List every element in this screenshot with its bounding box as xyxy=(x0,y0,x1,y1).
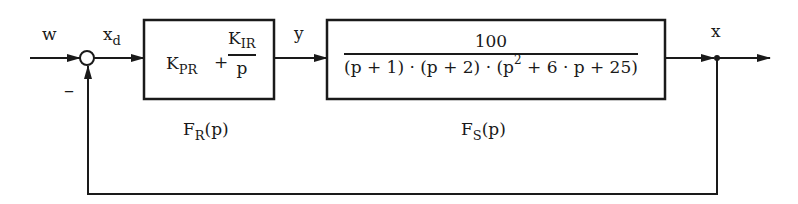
integral-denominator: p xyxy=(236,60,247,77)
feedback-sign: – xyxy=(64,80,74,100)
controller-name: FR(p) xyxy=(183,121,229,138)
error-subscript: d xyxy=(113,33,121,48)
error-symbol: x xyxy=(103,24,113,44)
proportional-gain: KPR xyxy=(166,55,197,72)
summing-junction xyxy=(80,51,94,65)
ki-subscript: IR xyxy=(241,36,256,51)
den-superscript: 2 xyxy=(514,53,522,67)
control-signal-symbol: y xyxy=(294,23,304,43)
controller-transfer-function: KPR + KIR p xyxy=(160,28,270,92)
reference-label: w xyxy=(42,26,57,43)
den-part2: + 6 · p + 25) xyxy=(522,57,638,77)
den-part1: (p + 1) · (p + 2) · (p xyxy=(344,57,514,77)
reference-symbol: w xyxy=(42,24,57,44)
ki-symbol: K xyxy=(228,28,241,48)
plant-name-symbol: F xyxy=(461,119,473,139)
plant-transfer-function: 100 (p + 1) · (p + 2) · (p2 + 6 · p + 25… xyxy=(344,33,638,76)
fraction-bar xyxy=(344,53,638,55)
controller-name-arg: (p) xyxy=(205,119,229,139)
control-signal-label: y xyxy=(294,25,304,42)
error-label: xd xyxy=(103,26,121,43)
plant-name-arg: (p) xyxy=(482,119,506,139)
integral-numerator: KIR xyxy=(228,30,256,47)
kp-symbol: K xyxy=(166,53,179,73)
integral-term: KIR p xyxy=(228,30,256,77)
plant-name-subscript: S xyxy=(473,128,482,143)
controller-name-subscript: R xyxy=(195,128,205,143)
plant-name: FS(p) xyxy=(461,121,506,138)
controller-name-symbol: F xyxy=(183,119,195,139)
output-label: x xyxy=(711,23,721,40)
plus-sign: + xyxy=(214,54,228,71)
minus-sign: – xyxy=(64,78,74,102)
plus-symbol: + xyxy=(214,52,228,72)
fraction-bar xyxy=(228,54,256,56)
plant-numerator: 100 xyxy=(475,33,507,50)
plant-denominator: (p + 1) · (p + 2) · (p2 + 6 · p + 25) xyxy=(344,59,638,76)
kp-subscript: PR xyxy=(179,62,198,77)
output-symbol: x xyxy=(711,21,721,41)
